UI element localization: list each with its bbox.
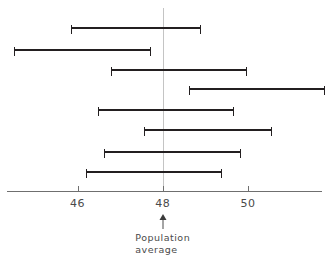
interval-cap-left [104, 149, 105, 158]
interval-bar [71, 27, 201, 29]
interval-cap-right [271, 127, 272, 136]
x-axis-tick [163, 186, 164, 192]
interval-cap-right [150, 47, 151, 56]
plot-area [0, 0, 329, 193]
interval-cap-left [111, 67, 112, 76]
interval-cap-right [324, 86, 325, 95]
x-axis-tick-label: 46 [70, 197, 85, 210]
interval-cap-left [86, 169, 87, 178]
interval-bar [111, 69, 247, 71]
x-axis-tick-label: 50 [241, 197, 256, 210]
up-arrow-icon [158, 214, 167, 229]
interval-bar [86, 171, 222, 173]
population-average-label-line2: average [135, 244, 190, 256]
x-axis-tick-label: 48 [155, 197, 170, 210]
interval-cap-right [233, 107, 234, 116]
interval-bar [14, 49, 151, 51]
interval-cap-left [98, 107, 99, 116]
interval-bar [98, 109, 234, 111]
interval-cap-right [240, 149, 241, 158]
x-axis-tick [78, 186, 79, 192]
population-average-label-line1: Population [135, 232, 190, 244]
interval-cap-right [200, 25, 201, 34]
population-average-reference-line [163, 8, 164, 192]
x-axis-tick [248, 186, 249, 192]
interval-cap-right [221, 169, 222, 178]
interval-cap-left [144, 127, 145, 136]
population-average-arrow-icon [158, 214, 167, 233]
population-average-label: Population average [135, 232, 190, 255]
x-axis-line [7, 191, 322, 192]
interval-cap-left [189, 86, 190, 95]
interval-bar [144, 129, 272, 131]
interval-cap-left [71, 25, 72, 34]
interval-cap-left [14, 47, 15, 56]
chart-root: 464850 Population average [0, 0, 329, 259]
interval-bar [189, 88, 325, 90]
interval-cap-right [246, 67, 247, 76]
interval-bar [104, 151, 241, 153]
